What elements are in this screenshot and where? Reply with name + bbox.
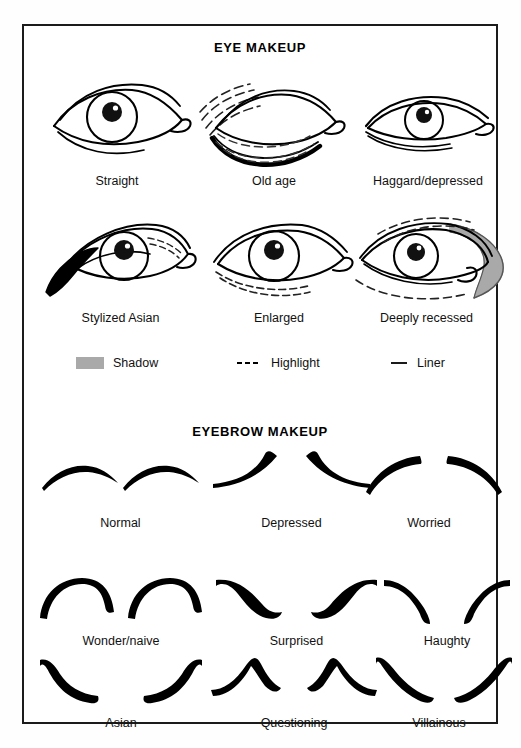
- eye-diagram-old-age: [194, 70, 354, 175]
- caption-deeply-recessed: Deeply recessed: [344, 311, 509, 325]
- dashed-line-icon: [236, 357, 262, 369]
- eye-diagram-enlarged: [204, 218, 354, 304]
- eyebrow-diagram-haughty: [382, 574, 512, 628]
- caption-asian: Asian: [36, 716, 206, 730]
- page-canvas: EYE MAKEUP Strai: [0, 0, 521, 748]
- caption-old-age: Old age: [194, 174, 354, 188]
- eyebrow-diagram-wonder-naive: [36, 574, 206, 626]
- caption-enlarged: Enlarged: [204, 311, 354, 325]
- eyebrow-diagram-asian: [36, 656, 206, 706]
- eyebrow-diagram-worried: [364, 450, 504, 500]
- eyebrow-diagram-normal: [38, 454, 203, 500]
- eye-diagram-stylized-asian: [38, 212, 193, 302]
- caption-worried: Worried: [354, 516, 504, 530]
- eyebrow-diagram-questioning: [209, 654, 379, 706]
- chart-sheet: EYE MAKEUP Strai: [22, 24, 498, 724]
- legend-label-shadow: Shadow: [113, 356, 158, 370]
- legend-item-liner: Liner: [390, 356, 445, 370]
- caption-straight: Straight: [42, 174, 192, 188]
- eye-makeup-heading: EYE MAKEUP: [24, 40, 496, 55]
- legend-label-liner: Liner: [417, 356, 445, 370]
- eyebrow-diagram-depressed: [209, 448, 374, 500]
- eyebrow-makeup-heading: EYEBROW MAKEUP: [24, 424, 496, 439]
- solid-line-icon: [390, 357, 408, 369]
- caption-stylized-asian: Stylized Asian: [38, 311, 203, 325]
- caption-normal: Normal: [38, 516, 203, 530]
- shadow-swatch-icon: [76, 357, 104, 369]
- eye-diagram-haggard-depressed: [358, 84, 498, 154]
- eyebrow-diagram-surprised: [214, 574, 379, 626]
- caption-wonder-naive: Wonder/naive: [36, 634, 206, 648]
- eyebrow-diagram-villainous: [374, 654, 514, 706]
- legend-item-highlight: Highlight: [236, 356, 320, 370]
- caption-surprised: Surprised: [214, 634, 379, 648]
- caption-haughty: Haughty: [372, 634, 521, 648]
- caption-haggard-depressed: Haggard/depressed: [348, 174, 508, 188]
- eye-diagram-straight: [42, 76, 192, 162]
- caption-villainous: Villainous: [364, 716, 514, 730]
- legend-item-shadow: Shadow: [76, 356, 158, 370]
- eye-makeup-legend: Shadow Highlight Liner: [24, 356, 496, 382]
- eye-diagram-deeply-recessed: [354, 208, 509, 308]
- caption-depressed: Depressed: [209, 516, 374, 530]
- legend-label-highlight: Highlight: [271, 356, 320, 370]
- caption-questioning: Questioning: [209, 716, 379, 730]
